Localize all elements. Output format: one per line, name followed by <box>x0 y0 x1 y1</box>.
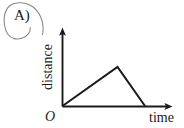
figure-container: A) distance time O <box>0 0 184 128</box>
origin-label: O <box>45 110 55 124</box>
y-axis-label: distance <box>41 44 55 90</box>
data-curve <box>63 67 146 106</box>
part-label: A) <box>14 8 30 23</box>
x-axis-label: time <box>149 111 174 125</box>
